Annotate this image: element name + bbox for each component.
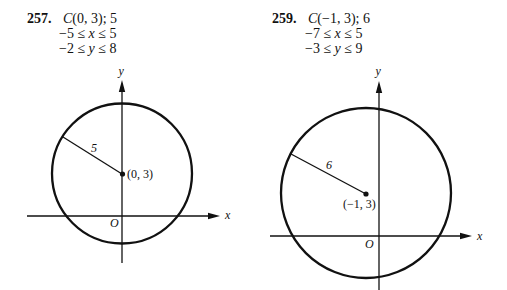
center-point [363,191,368,196]
y-axis-label: y [118,64,125,78]
center-label: (−1, 3) [343,197,376,211]
y-axis-arrow-icon [119,80,125,92]
x-axis-label: x [476,229,483,243]
origin-label: O [110,216,119,230]
origin-label: O [365,237,374,251]
radius-label: 6 [326,158,332,172]
graphs: y x O (0, 3) 5 y x O (−1, 3) 6 [0,0,507,290]
graph-257: y x O (0, 3) 5 [27,64,231,263]
y-axis-label: y [375,64,382,78]
center-point [120,171,125,176]
radius-label: 5 [91,141,97,155]
x-axis-arrow-icon [460,233,472,239]
center-label: (0, 3) [127,167,153,181]
y-axis-arrow-icon [376,81,382,93]
x-axis-label: x [224,208,231,222]
graph-259: y x O (−1, 3) 6 [270,64,483,290]
x-axis-arrow-icon [208,213,220,219]
